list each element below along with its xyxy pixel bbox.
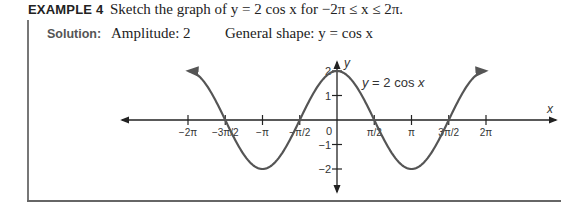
- x-tick-label: −3π/2: [212, 127, 239, 138]
- curve-label: y = 2 cos x: [361, 75, 425, 90]
- x-tick-label: π: [408, 127, 415, 138]
- x-tick-label: −2π: [179, 127, 197, 138]
- origin-label: 0: [326, 125, 332, 137]
- x-axis-label: x: [546, 102, 554, 116]
- y-tick-label: −2: [318, 163, 331, 175]
- cosine-graph: −2π−3π/2−π−π/2π/2π3π/22π021−1−2 y x y = …: [0, 0, 576, 208]
- x-tick-label: 2π: [480, 127, 493, 138]
- x-tick-label: −π: [256, 127, 269, 138]
- bottom-rule: [27, 200, 561, 202]
- y-axis-label: y: [343, 56, 351, 70]
- y-tick-label: −1: [318, 139, 331, 151]
- y-tick-label: 1: [325, 90, 331, 102]
